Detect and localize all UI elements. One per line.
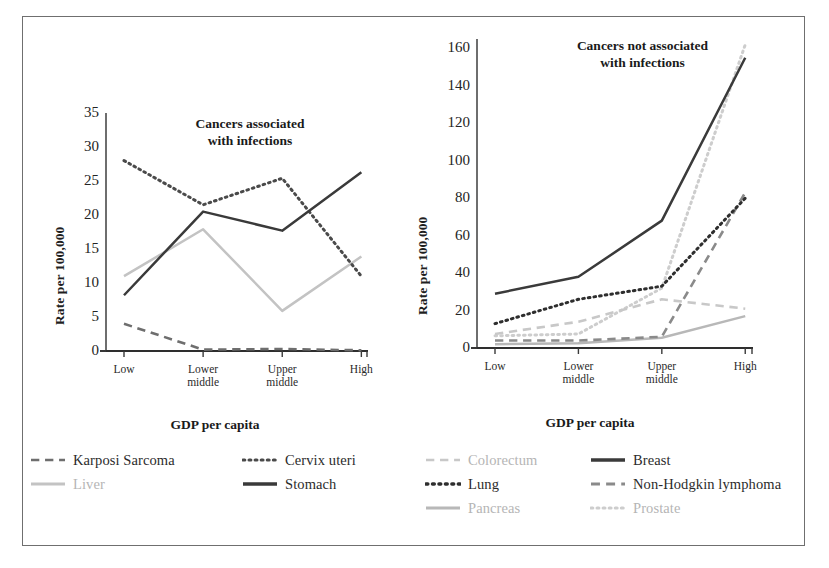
y-tick-label: 40 (436, 265, 470, 280)
chart-panel-right: Rate per 100,000 Cancers not associated … (425, 25, 810, 415)
figure-container: Rate per 100,000 Cancers associated with… (0, 0, 829, 568)
y-tick-label: 10 (73, 275, 99, 290)
legend-item[interactable]: Prostate (590, 496, 805, 520)
x-tick-label: Low (455, 360, 535, 373)
chart-title-right: Cancers not associated with infections (535, 37, 750, 71)
y-tick-label: 35 (73, 105, 99, 120)
y-tick-label: 25 (73, 173, 99, 188)
y-tick-label: 0 (436, 340, 470, 355)
legend-item[interactable]: Lung (425, 472, 585, 496)
y-tick-label: 80 (436, 190, 470, 205)
x-tick-label: Low (84, 363, 164, 376)
series-line (495, 193, 745, 341)
y-axis-label-left: Rate per 100,000 (52, 227, 68, 325)
legend-label: Non-Hodgkin lymphoma (633, 476, 781, 493)
legend-line-swatch-icon (590, 502, 626, 514)
legend-label: Pancreas (468, 500, 520, 517)
series-line (124, 229, 361, 311)
series-line (495, 316, 745, 344)
legend-column: ColorectumLungPancreas (425, 448, 585, 520)
legend-column: BreastNon-Hodgkin lymphomaProstate (590, 448, 805, 520)
legend-label: Colorectum (468, 452, 537, 469)
legend-item[interactable]: Stomach (242, 472, 417, 496)
y-tick-label: 30 (73, 139, 99, 154)
legend-item[interactable]: Colorectum (425, 448, 585, 472)
legend-line-swatch-icon (30, 454, 66, 466)
legend-label: Lung (468, 476, 499, 493)
legend-line-swatch-icon (30, 478, 66, 490)
y-tick-label: 160 (436, 40, 470, 55)
legend-item[interactable]: Karposi Sarcoma (30, 448, 225, 472)
y-axis-label-right: Rate per 100,000 (415, 217, 431, 315)
legend-item[interactable]: Pancreas (425, 496, 585, 520)
legend-item[interactable]: Breast (590, 448, 805, 472)
x-tick-label: Lower middle (538, 360, 618, 386)
y-tick-label: 15 (73, 241, 99, 256)
y-tick-label: 100 (436, 153, 470, 168)
legend-label: Prostate (633, 500, 681, 517)
x-axis-label-left: GDP per capita (60, 417, 370, 433)
plot-area-right (425, 25, 755, 370)
legend-column: Karposi SarcomaLiver (30, 448, 225, 496)
legend-label: Liver (73, 476, 105, 493)
y-tick-label: 60 (436, 228, 470, 243)
legend-label: Breast (633, 452, 671, 469)
legend-item[interactable]: Non-Hodgkin lymphoma (590, 472, 805, 496)
x-tick-label: High (321, 363, 401, 376)
series-line (495, 45, 745, 336)
x-tick-label: Lower middle (163, 363, 243, 389)
legend-label: Stomach (285, 476, 336, 493)
series-line (124, 324, 361, 351)
y-tick-label: 0 (73, 343, 99, 358)
legend-label: Cervix uteri (285, 452, 356, 469)
legend-line-swatch-icon (242, 454, 278, 466)
x-tick-label: High (705, 360, 785, 373)
legend-line-swatch-icon (425, 502, 461, 514)
y-tick-label: 120 (436, 115, 470, 130)
chart-legend: Karposi SarcomaLiverCervix uteriStomachC… (30, 448, 805, 526)
x-tick-label: Upper middle (242, 363, 322, 389)
legend-line-swatch-icon (590, 478, 626, 490)
legend-line-swatch-icon (425, 454, 461, 466)
y-tick-label: 20 (436, 303, 470, 318)
chart-panel-left: Rate per 100,000 Cancers associated with… (60, 95, 420, 415)
y-tick-label: 20 (73, 207, 99, 222)
legend-item[interactable]: Cervix uteri (242, 448, 417, 472)
legend-line-swatch-icon (425, 478, 461, 490)
y-tick-label: 5 (73, 309, 99, 324)
y-tick-label: 140 (436, 78, 470, 93)
legend-item[interactable]: Liver (30, 472, 225, 496)
legend-line-swatch-icon (590, 454, 626, 466)
x-tick-label: Upper middle (622, 360, 702, 386)
series-line (495, 299, 745, 334)
legend-column: Cervix uteriStomach (242, 448, 417, 496)
x-axis-label-right: GDP per capita (425, 415, 755, 431)
chart-title-left: Cancers associated with infections (150, 115, 350, 149)
legend-line-swatch-icon (242, 478, 278, 490)
legend-label: Karposi Sarcoma (73, 452, 175, 469)
